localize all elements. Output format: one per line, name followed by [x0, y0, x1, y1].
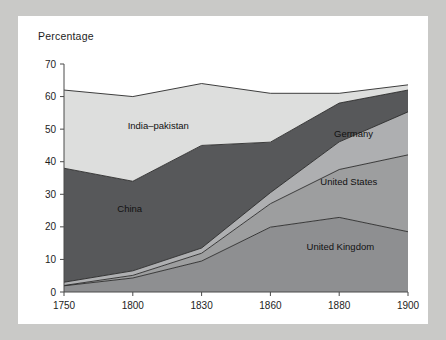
series-label-germany: Germany [334, 128, 373, 139]
x-tick-label: 1880 [328, 300, 351, 311]
x-tick-label: 1900 [397, 300, 420, 311]
x-axis-ticks: 175018001830186018801900 [53, 292, 420, 311]
y-tick-label: 50 [45, 124, 57, 135]
series-label-united-kingdom: United Kingdom [307, 241, 375, 252]
y-tick-label: 70 [45, 59, 57, 70]
chart-plot-area: 010203040506070 175018001830186018801900… [18, 16, 428, 324]
x-tick-label: 1860 [259, 300, 282, 311]
y-axis-ticks: 010203040506070 [45, 59, 64, 298]
x-tick-label: 1750 [53, 300, 76, 311]
x-tick-label: 1800 [122, 300, 145, 311]
stacked-area-chart: 010203040506070 175018001830186018801900… [18, 16, 428, 324]
y-tick-label: 20 [45, 221, 57, 232]
area-bands-group [64, 84, 408, 292]
y-tick-label: 60 [45, 91, 57, 102]
y-tick-label: 30 [45, 189, 57, 200]
y-tick-label: 40 [45, 156, 57, 167]
y-tick-label: 0 [50, 287, 56, 298]
x-tick-label: 1830 [190, 300, 213, 311]
series-label-india-pakistan: India–pakistan [128, 120, 189, 131]
series-label-united-states: United States [320, 176, 377, 187]
figure-card: Percentage 010203040506070 1750180018301… [18, 16, 428, 324]
y-tick-label: 10 [45, 254, 57, 265]
series-label-china: China [117, 203, 143, 214]
